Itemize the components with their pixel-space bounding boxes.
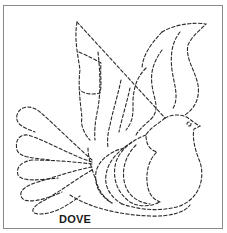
- dove-eye: [187, 122, 191, 126]
- back-wing-feather-2: [95, 52, 100, 140]
- tail-feather-4: [21, 167, 92, 201]
- back-wing-feather-1: [79, 52, 101, 94]
- dove-pattern-drawing: [0, 0, 227, 233]
- wing-diagonal-line: [77, 22, 165, 118]
- pattern-title: DOVE: [59, 213, 91, 225]
- body-inner-2: [106, 142, 132, 204]
- back-wing-outer: [76, 22, 90, 140]
- tail-feather-1: [17, 107, 92, 160]
- tail-feather-2: [16, 135, 92, 162]
- neck-curve: [146, 118, 165, 202]
- front-wing-feather-2: [171, 32, 180, 110]
- back-wing-feather-4: [119, 88, 130, 132]
- body-inner-4: [124, 145, 151, 204]
- front-wing-feather-5: [142, 32, 162, 68]
- front-wing-feather-outer: [162, 23, 206, 115]
- tail-base: [88, 148, 112, 203]
- back-wing-feather-3: [108, 80, 121, 148]
- front-wing-feather-3: [136, 50, 162, 135]
- body-inner-1: [115, 135, 160, 206]
- dove-head: [122, 115, 202, 210]
- body-inner-3: [96, 148, 124, 203]
- front-wing-feather-4: [126, 68, 146, 130]
